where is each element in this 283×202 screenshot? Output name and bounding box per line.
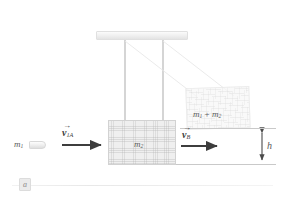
figure-separator-line — [12, 185, 273, 186]
label-bullet-mass-subscript: 1 — [21, 143, 24, 149]
block-swung-up — [185, 86, 250, 130]
velocity-initial-subscript: 1A — [66, 131, 73, 138]
ballistic-pendulum-figure: m1 m2 m1 + m2 h →v1A →vB a — [0, 0, 283, 202]
label-velocity-initial: →v1A — [62, 124, 73, 139]
label-combined-mass-plus: + — [205, 109, 210, 119]
panel-label-badge: a — [19, 178, 31, 191]
ceiling-hatch-texture — [97, 32, 187, 39]
pendulum-rod-left — [124, 40, 126, 120]
height-reference-line-bottom — [176, 164, 276, 165]
label-block-mass-subscript: 2 — [141, 143, 144, 149]
label-block-mass: m2 — [134, 140, 143, 150]
ceiling-support-bar — [96, 31, 188, 40]
bullet-projectile — [29, 141, 46, 149]
label-height: h — [267, 141, 272, 151]
wood-grain-texture-swung — [186, 87, 249, 129]
label-combined-mass: m1 + m2 — [193, 110, 221, 120]
label-combined-mass-subscript-2: 2 — [218, 113, 221, 119]
label-velocity-after: →vB — [182, 126, 190, 141]
pendulum-rod-right — [162, 40, 164, 120]
label-height-symbol: h — [267, 140, 272, 151]
label-combined-mass-subscript-1: 1 — [200, 113, 203, 119]
label-bullet-mass: m1 — [14, 140, 23, 150]
height-reference-line-top — [180, 128, 276, 129]
velocity-after-subscript: B — [186, 133, 190, 140]
